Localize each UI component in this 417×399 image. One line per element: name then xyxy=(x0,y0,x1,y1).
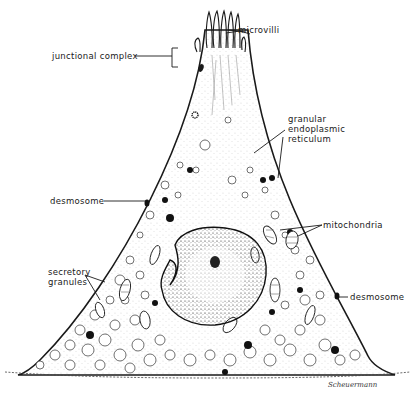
label-desmosome-left: desmosome xyxy=(50,196,104,206)
label-secretory-line2: granules xyxy=(48,277,91,287)
label-granular-er-line1: granular xyxy=(288,114,345,124)
label-junctional-complex: junctional complex xyxy=(52,51,138,61)
label-secretory-granules: secretory granules xyxy=(48,267,91,287)
label-granular-er-line3: reticulum xyxy=(288,134,345,144)
label-granular-er-line2: endoplasmic xyxy=(288,124,345,134)
label-mitochondria: mitochondria xyxy=(323,220,383,230)
cell-diagram: microvilli junctional complex granular e… xyxy=(0,0,417,399)
label-desmosome-right: desmosome xyxy=(350,292,404,302)
artist-signature: Scheuermann xyxy=(328,381,377,389)
label-granular-er: granular endoplasmic reticulum xyxy=(288,114,345,144)
label-secretory-line1: secretory xyxy=(48,267,91,277)
label-microvilli: microvilli xyxy=(238,25,279,35)
